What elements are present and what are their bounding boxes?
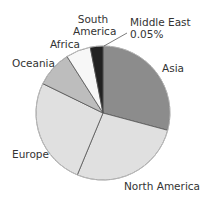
label-africa: Africa [50,38,80,50]
label-middle-east-line1: Middle East [130,16,191,28]
label-middle-east-line2: 0.05% [130,28,191,40]
label-north-america: North America [124,180,200,192]
label-europe: Europe [12,148,49,160]
label-oceania: Oceania [12,57,55,69]
label-south-america: South America [73,13,113,37]
label-asia: Asia [162,62,184,74]
label-south-america-line1: South [73,13,113,25]
label-middle-east: Middle East 0.05% [130,16,191,40]
label-south-america-line2: America [73,25,113,37]
